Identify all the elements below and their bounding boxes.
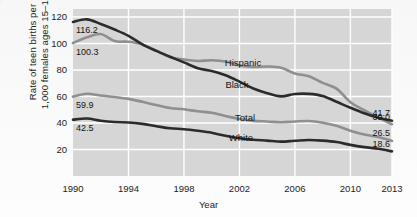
y-tick-label: 100 xyxy=(51,38,67,49)
series-label-white: White xyxy=(229,132,253,143)
y-tick-label: 40 xyxy=(56,117,67,128)
x-tick-label: 2010 xyxy=(340,183,361,194)
value-label-end-hispanic: 39.0 xyxy=(372,112,390,122)
series-label-total: Total xyxy=(235,112,255,123)
y-tick-label: 20 xyxy=(56,144,67,155)
x-tick-label: 2006 xyxy=(284,183,305,194)
value-label-start-black: 116.2 xyxy=(76,25,98,35)
series-label-hispanic: Hispanic xyxy=(225,57,262,68)
x-tick-label: 1990 xyxy=(62,183,83,194)
x-tick-label: 2002 xyxy=(229,183,250,194)
value-label-end-white: 18.6 xyxy=(372,139,390,149)
y-tick-label: 120 xyxy=(51,11,67,22)
plot-background xyxy=(73,9,392,176)
y-tick-label: 80 xyxy=(56,64,67,75)
series-label-black: Black xyxy=(225,79,248,90)
x-tick-label: 1994 xyxy=(118,183,139,194)
value-label-start-total: 59.9 xyxy=(76,100,94,110)
teen-birth-rate-line-chart: Rate of teen births per 1,000 females ag… xyxy=(0,0,417,217)
value-label-start-white: 42.5 xyxy=(76,123,94,133)
value-label-start-hispanic: 100.3 xyxy=(76,47,99,57)
value-label-end-total: 26.5 xyxy=(372,128,390,138)
y-tick-label: 60 xyxy=(56,91,67,102)
x-tick-label: 2013 xyxy=(381,183,402,194)
plot-svg: 2040608010012019901994199820022006201020… xyxy=(0,0,417,217)
x-tick-label: 1998 xyxy=(173,183,194,194)
x-axis-title: Year xyxy=(0,199,417,210)
